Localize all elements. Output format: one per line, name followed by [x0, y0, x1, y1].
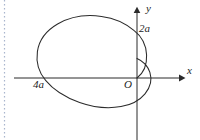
x-axis-arrow-icon	[179, 75, 186, 82]
x-axis-label: x	[187, 65, 192, 76]
figure-canvas	[0, 0, 200, 140]
cardioid-figure: y x 2a 4a O	[0, 0, 200, 140]
cardioid-curve	[37, 16, 151, 108]
y-axis-arrow-icon	[134, 7, 141, 13]
x-intercept-label: 4a	[33, 79, 44, 90]
y-axis-label: y	[146, 3, 151, 14]
y-intercept-label: 2a	[139, 23, 150, 34]
origin-label: O	[124, 79, 132, 90]
